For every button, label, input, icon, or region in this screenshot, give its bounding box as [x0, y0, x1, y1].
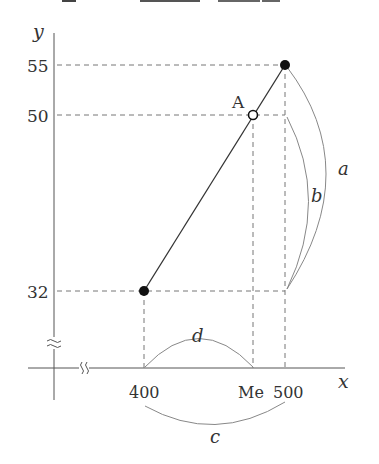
x-tick-500: 500: [273, 383, 304, 402]
x-tick-me: Me: [238, 383, 264, 402]
point-a: [249, 111, 258, 120]
y-tick-55: 55: [27, 56, 49, 76]
x-axis-break-icon: [79, 362, 89, 374]
y-axis-break-icon: [47, 337, 61, 349]
y-tick-50: 50: [27, 106, 49, 126]
y-tick-32: 32: [27, 282, 49, 302]
interpolation-line: [144, 65, 285, 291]
point-400-32: [139, 286, 149, 296]
arc-c-label: c: [210, 426, 220, 447]
y-axis-label: y: [32, 20, 44, 42]
arc-b: [287, 117, 309, 289]
point-a-label: A: [231, 92, 245, 112]
x-tick-400: 400: [129, 383, 160, 402]
point-500-55: [280, 60, 290, 70]
arc-c: [145, 402, 285, 425]
arc-a-label: a: [338, 158, 349, 179]
title-sliver: [62, 0, 280, 2]
arc-b-label: b: [311, 185, 323, 206]
x-axis-label: x: [338, 370, 349, 392]
median-interpolation-diagram: y x 55 50 32 a b d c 400 Me 500 A: [0, 0, 379, 464]
arc-d-label: d: [192, 325, 204, 346]
